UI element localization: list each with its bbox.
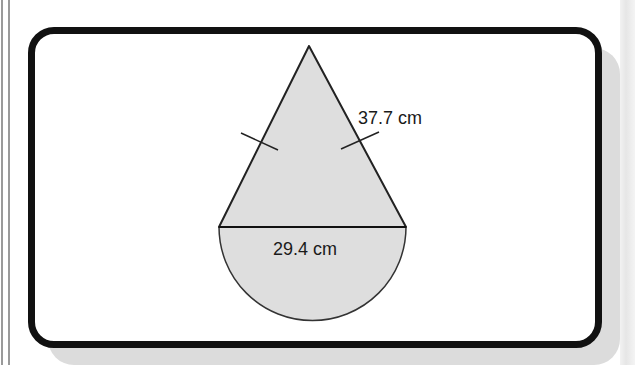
slant-side-label: 37.7 cm — [358, 108, 422, 128]
diameter-label: 29.4 cm — [273, 239, 337, 259]
composite-shape-figure: 37.7 cm 29.4 cm — [0, 0, 635, 365]
